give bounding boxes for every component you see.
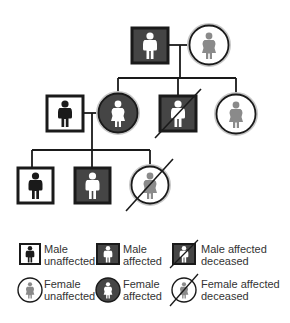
individual-male-unaffected — [47, 96, 83, 131]
individual-female-unaffected — [215, 93, 257, 135]
legend-label-female-unaffected: Femaleunaffected — [44, 278, 95, 302]
individual-male-affected-deceased — [155, 89, 201, 138]
legend-icon-male-affected-deceased — [170, 240, 198, 268]
legend-label-female-affected-deceased: Female affecteddeceased — [201, 278, 280, 302]
legend-label-line1: Male — [123, 243, 147, 255]
legend-label-line1: Female — [123, 278, 160, 290]
legend-label-male-affected: Maleaffected — [123, 243, 162, 267]
legend-label-line2: affected — [123, 255, 162, 267]
legend-label-line2: unaffected — [44, 255, 95, 267]
legend-label-male-unaffected: Maleunaffected — [44, 243, 95, 267]
individual-male-unaffected — [18, 168, 53, 203]
individual-female-unaffected — [188, 24, 230, 66]
pedigree-diagram — [0, 0, 290, 323]
legend-label-line1: Male affected — [201, 243, 267, 255]
legend-icon-female-unaffected — [18, 278, 42, 302]
legend-label-line1: Male — [44, 243, 68, 255]
legend-icon-male-affected — [97, 244, 119, 264]
legend-label-male-affected-deceased: Male affecteddeceased — [201, 243, 267, 267]
individual-female-affected — [97, 92, 139, 134]
legend-label-line1: Female — [44, 278, 81, 290]
individual-male-affected — [132, 28, 168, 63]
legend-label-line2: unaffected — [44, 290, 95, 302]
legend-label-line2: deceased — [201, 255, 249, 267]
legend-icon-female-affected — [96, 278, 120, 302]
individual-male-affected — [75, 168, 110, 203]
legend-icon-female-affected-deceased — [170, 274, 198, 306]
legend-label-line2: deceased — [201, 290, 249, 302]
legend-label-female-affected: Femaleaffected — [123, 278, 162, 302]
legend-label-line1: Female affected — [201, 278, 280, 290]
legend-icon-male-unaffected — [20, 244, 40, 264]
legend-label-line2: affected — [123, 290, 162, 302]
individual-female-affected-deceased — [126, 159, 173, 211]
